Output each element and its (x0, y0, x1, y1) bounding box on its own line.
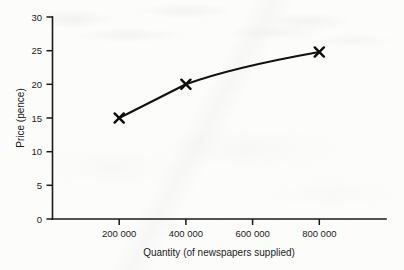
y-tick-label-10: 10 (31, 146, 42, 157)
y-tick-label-15: 15 (31, 113, 42, 124)
x-tick-label-400000: 400 000 (169, 228, 203, 239)
y-tick-label-30: 30 (31, 12, 42, 23)
y-tick-label-20: 20 (31, 79, 42, 90)
supply-series (115, 47, 324, 122)
x-tick-label-600000: 600 000 (235, 228, 269, 239)
x-axis-title: Quantity (of newspapers supplied) (143, 247, 295, 258)
supply-curve-chart: 30 25 20 15 10 5 0 Price (pence) 200 000… (0, 0, 404, 270)
data-point-marker-2 (181, 80, 190, 89)
data-point-marker-1 (115, 113, 124, 122)
y-axis-title: Price (pence) (15, 88, 26, 147)
chart-canvas: 30 25 20 15 10 5 0 Price (pence) 200 000… (0, 0, 404, 270)
supply-curve-line (119, 52, 319, 118)
x-axis: 200 000 400 000 600 000 800 000 Quantity… (53, 219, 387, 258)
y-tick-label-5: 5 (37, 180, 42, 191)
y-axis: 30 25 20 15 10 5 0 Price (pence) (15, 12, 53, 225)
y-tick-label-0: 0 (37, 214, 42, 225)
x-tick-label-800000: 800 000 (302, 228, 336, 239)
y-tick-label-25: 25 (31, 45, 42, 56)
x-tick-label-200000: 200 000 (102, 228, 136, 239)
